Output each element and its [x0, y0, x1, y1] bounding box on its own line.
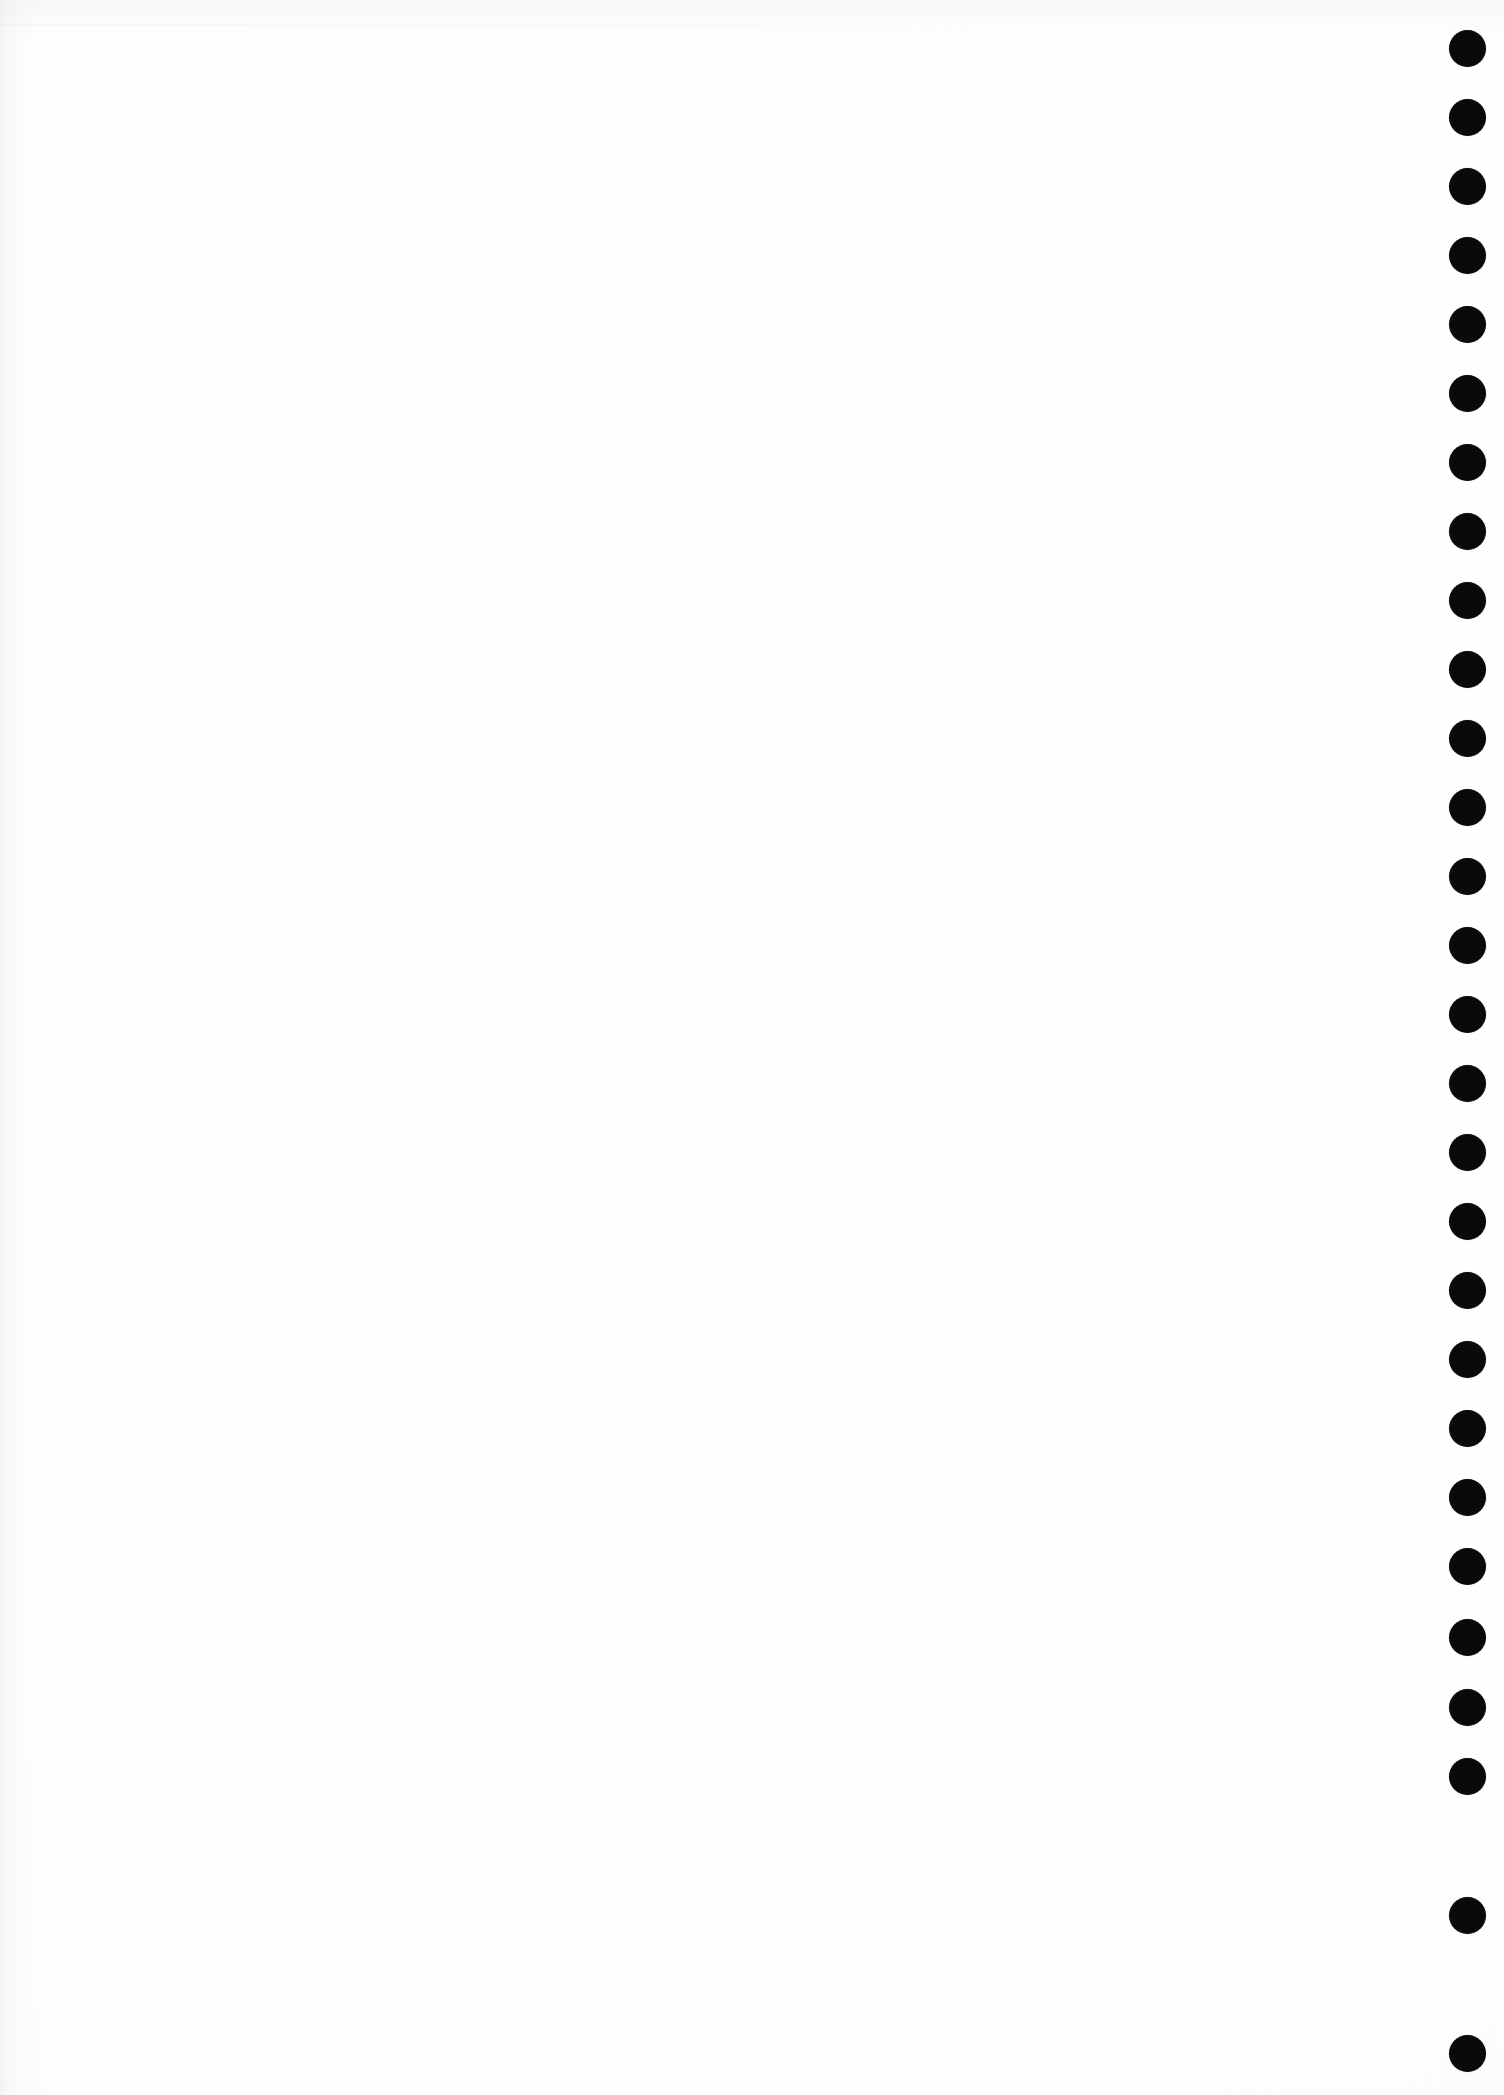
scanned-page	[0, 0, 1504, 2095]
binding-dot	[1449, 1203, 1486, 1240]
binding-dot	[1449, 444, 1486, 481]
binding-dot	[1449, 1134, 1486, 1171]
binding-dot	[1449, 858, 1486, 895]
binding-dot	[1449, 1897, 1486, 1934]
binding-dot	[1449, 996, 1486, 1033]
binding-dot	[1449, 582, 1486, 619]
binding-dot	[1449, 1065, 1486, 1102]
binding-dot	[1449, 1272, 1486, 1309]
binding-dot	[1449, 168, 1486, 205]
binding-dot	[1449, 237, 1486, 274]
binding-dot	[1449, 513, 1486, 550]
binding-dot	[1449, 1548, 1486, 1585]
binding-dot	[1449, 1479, 1486, 1516]
binding-dot	[1449, 306, 1486, 343]
binding-dot	[1449, 1619, 1486, 1656]
binding-dot	[1449, 30, 1486, 67]
binding-dot	[1449, 1689, 1486, 1726]
binding-dot	[1449, 789, 1486, 826]
binding-dot	[1449, 927, 1486, 964]
binding-dot	[1449, 1341, 1486, 1378]
binding-dot-column	[0, 0, 1504, 2095]
binding-dot	[1449, 2035, 1486, 2072]
binding-dot	[1449, 99, 1486, 136]
binding-dot	[1449, 720, 1486, 757]
binding-dot	[1449, 1758, 1486, 1795]
binding-dot	[1449, 1410, 1486, 1447]
binding-dot	[1449, 375, 1486, 412]
binding-dot	[1449, 651, 1486, 688]
